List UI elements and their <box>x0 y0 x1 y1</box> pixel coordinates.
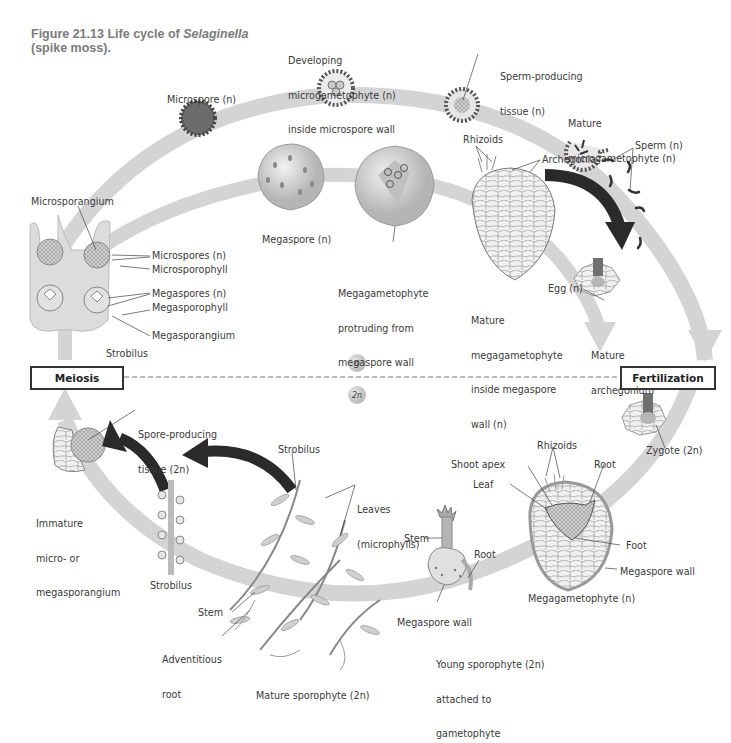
label-megaspores: Megaspores (n) <box>152 288 226 300</box>
label-microspore: Microspore (n) <box>167 94 236 106</box>
label-megagametophyte: Megagametophyte (n) <box>528 593 635 605</box>
label-adventitious-root: Adventitious root <box>162 631 222 712</box>
meiosis-box: Meiosis <box>30 366 124 390</box>
strobilus-illustration <box>158 480 184 575</box>
label-megagametophyte-protruding: Megagametophyte protruding from megaspor… <box>338 265 429 380</box>
label-megasporangium: Megasporangium <box>152 330 235 342</box>
label-rhizoids-top: Rhizoids <box>463 134 503 146</box>
label-spore-producing-tissue: Spore-producing tissue (2n) <box>138 406 217 487</box>
label-developing-microgametophyte: Developing microgametophyte (n) inside m… <box>288 32 396 147</box>
diploid-marker: 2n <box>348 386 366 404</box>
label-mature-sporophyte: Mature sporophyte (2n) <box>256 690 369 702</box>
microspore-illustration <box>181 101 215 135</box>
label-zygote: Zygote (2n) <box>646 445 703 457</box>
label-immature-sporangium: Immature micro- or megasporangium <box>36 495 120 610</box>
label-mature-archegonium: Mature archegonium <box>591 327 654 408</box>
mature-megagametophyte-illustration <box>472 154 555 280</box>
megaspore-illustration <box>258 144 324 210</box>
label-root-embryo: Root <box>594 459 616 471</box>
label-root-young: Root <box>474 549 496 561</box>
label-strobilus-top: Strobilus <box>106 348 148 360</box>
label-rhizoids-bottom: Rhizoids <box>537 440 577 452</box>
arc-arrowhead-right <box>688 330 722 362</box>
label-sperm: Sperm (n) <box>635 140 683 152</box>
label-stem-plant: Stem <box>198 607 223 619</box>
label-foot: Foot <box>626 540 647 552</box>
label-egg: Egg (n) <box>548 283 583 295</box>
label-strobilus-left: Strobilus <box>150 580 192 592</box>
label-shoot-apex: Shoot apex <box>451 459 505 471</box>
label-leaves: Leaves (microphylls) <box>357 481 420 562</box>
label-strobilus-plant: Strobilus <box>278 444 320 456</box>
label-microsporophyll: Microsporophyll <box>152 264 228 276</box>
arc-arrowhead-left <box>48 388 82 420</box>
label-young-sporophyte: Young sporophyte (2n) attached to gameto… <box>436 636 545 743</box>
label-megaspore-wall-young: Megaspore wall <box>397 617 472 629</box>
label-leaf: Leaf <box>473 479 493 491</box>
sperm-producing-spore-illustration <box>446 89 478 121</box>
label-microsporangium: Microsporangium <box>31 196 114 208</box>
megagametophyte-protruding-illustration <box>355 146 434 226</box>
label-megasporophyll: Megasporophyll <box>152 302 228 314</box>
label-mature-megagametophyte: Mature megagametophyte inside megaspore … <box>471 292 563 442</box>
figure-title: Figure 21.13 Life cycle of Selaginella (… <box>31 27 248 55</box>
label-megaspore-wall-embryo: Megaspore wall <box>620 566 695 578</box>
label-microspores: Microspores (n) <box>152 250 226 262</box>
label-megaspore: Megaspore (n) <box>262 234 331 246</box>
label-stem-young: Stem <box>404 533 429 545</box>
label-archegonia: Archegonia <box>542 154 596 166</box>
